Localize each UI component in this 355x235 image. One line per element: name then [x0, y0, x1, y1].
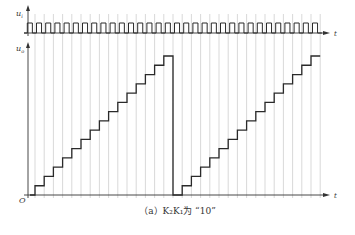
clock-y-axis-arrow-icon: [26, 5, 30, 11]
output-y-axis-arrow-icon: [26, 42, 30, 48]
clock-axis-label: ui: [16, 9, 23, 19]
output-staircase: [30, 56, 320, 195]
timing-diagram: ui t uo t O: [0, 0, 355, 235]
output-axis-label: uo: [16, 44, 24, 54]
clock-time-label: t: [334, 30, 337, 38]
figure-caption: （a）K₂K₁为 “10”: [0, 204, 355, 217]
output-staircase-trace: [30, 56, 320, 195]
output-time-label: t: [334, 192, 337, 200]
clock-t-axis-arrow-icon: [323, 31, 330, 35]
clock-grid-lines: [35, 14, 320, 198]
output-t-axis-arrow-icon: [323, 193, 330, 197]
